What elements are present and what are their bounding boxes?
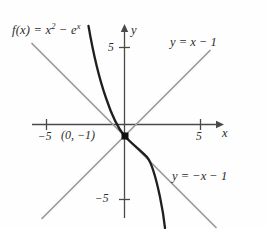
y-axis-label: y (131, 24, 137, 37)
function-label-text: f(x) = x (12, 23, 51, 37)
x-axis-label: x (222, 127, 228, 140)
y-axis-arrowhead (121, 24, 128, 32)
line2-label: y = −x − 1 (172, 170, 227, 183)
function-label: f(x) = x2 − ex (12, 22, 81, 37)
y-axis (119, 24, 130, 218)
point-coordinate-label: (0, −1) (61, 129, 95, 141)
y-tick-label-neg5: −5 (95, 193, 109, 205)
point-marker-0-neg1 (122, 133, 129, 140)
line1-label: y = x − 1 (170, 36, 217, 49)
function-label-mid: − e (56, 23, 77, 37)
x-tick-label-neg5: −5 (38, 131, 52, 143)
graph-figure: f(x) = x2 − ex y = x − 1 y = −x − 1 (0, … (0, 0, 266, 229)
function-exponent-x: x (77, 21, 81, 31)
x-tick-label-pos5: 5 (196, 131, 202, 143)
y-tick-label-pos5: 5 (108, 42, 114, 54)
